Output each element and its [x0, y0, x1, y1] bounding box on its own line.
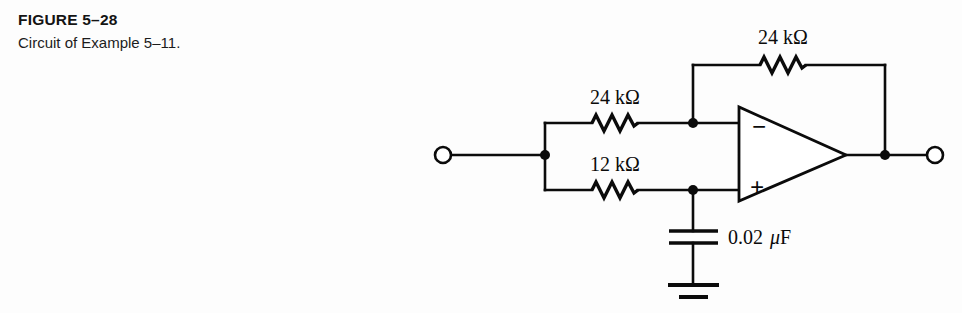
- junction-dot-inverting-node: [688, 118, 698, 128]
- output-terminal-ring: [927, 147, 943, 163]
- junction-dot-noninverting-node: [688, 185, 698, 195]
- opamp-noninverting-sign: +: [750, 174, 764, 201]
- input-resistor-bottom-label: 12 kΩ: [590, 153, 640, 175]
- circuit-diagram: − + 24 kΩ 24 kΩ 12 kΩ 0.02μF: [0, 0, 962, 313]
- input-resistor-top-symbol: [592, 115, 638, 131]
- capacitor-unit-mu: μ: [769, 226, 780, 249]
- input-resistor-bottom-symbol: [592, 182, 638, 198]
- capacitor-unit-farad: F: [780, 226, 791, 248]
- feedback-resistor-label: 24 kΩ: [758, 26, 808, 48]
- opamp-inverting-sign: −: [752, 113, 766, 140]
- feedback-resistor-symbol: [760, 57, 806, 73]
- figure-page: FIGURE 5–28 Circuit of Example 5–11.: [0, 0, 962, 313]
- capacitor-label: 0.02μF: [728, 226, 791, 249]
- input-terminal-ring: [435, 147, 451, 163]
- junction-dot-output-node: [880, 150, 890, 160]
- input-resistor-top-label: 24 kΩ: [590, 86, 640, 108]
- capacitor-value-number: 0.02: [728, 226, 763, 248]
- junction-dot-input-split: [540, 150, 550, 160]
